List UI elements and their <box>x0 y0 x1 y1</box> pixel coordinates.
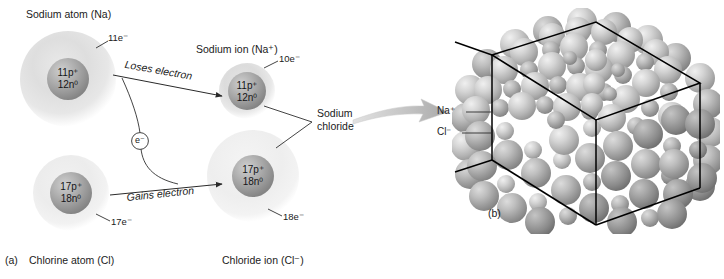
transition-arrow <box>353 99 448 124</box>
sodium-ion-electron-label: 10e⁻ <box>279 53 300 65</box>
sodium-ion-title: Sodium ion (Na⁺) <box>196 43 278 55</box>
sodium-chloride-label-line2: chloride <box>317 120 354 132</box>
electron-token-label: e⁻ <box>131 135 149 145</box>
sodium-atom-title: Sodium atom (Na) <box>26 8 111 20</box>
sodium-ion-nucleus-neutrons: 12n⁰ <box>227 92 267 104</box>
leader-line-nacl-upper <box>264 106 312 122</box>
sodium-atom-nucleus-neutrons: 12n⁰ <box>48 79 88 91</box>
sodium-atom-nucleus-protons: 11p⁺ <box>48 67 88 79</box>
lattice-sodium-ion-label: Na⁺ <box>437 105 455 117</box>
electron-path-upper <box>122 78 140 133</box>
chlorine-atom-nucleus-neutrons: 18n⁰ <box>51 193 91 205</box>
chloride-ion-nucleus-protons: 17p⁺ <box>233 164 273 176</box>
sodium-atom-electron-label: 11e⁻ <box>108 32 128 44</box>
nacl-crystal-lattice <box>451 7 724 237</box>
panel-b-marker: (b) <box>488 207 501 219</box>
chloride-ion-electron-label: 18e⁻ <box>283 211 304 223</box>
electron-path-lower <box>141 149 178 184</box>
chlorine-atom-title: Chlorine atom (Cl) <box>29 254 114 266</box>
ionic-bonding-figure: Sodium atom (Na) 11e⁻ 11p⁺ 12n⁰ 17p⁺ 18n… <box>0 0 724 279</box>
panel-a-marker: (a) <box>5 254 18 266</box>
chlorine-atom-nucleus-protons: 17p⁺ <box>51 181 91 193</box>
sodium-ion-nucleus-protons: 11p⁺ <box>227 80 267 92</box>
lattice-chloride-ion-label: Cl⁻ <box>437 126 451 138</box>
chlorine-atom-electron-label: 17e⁻ <box>111 216 132 228</box>
chloride-ion-title: Chloride ion (Cl⁻) <box>222 254 304 266</box>
sodium-chloride-label-line1: Sodium <box>317 107 353 119</box>
leader-line-naion-electrons <box>264 61 278 68</box>
loses-electron-arrow <box>113 75 222 96</box>
leader-line-nacl-lower <box>276 122 312 148</box>
chloride-ion-nucleus-neutrons: 18n⁰ <box>233 176 273 188</box>
